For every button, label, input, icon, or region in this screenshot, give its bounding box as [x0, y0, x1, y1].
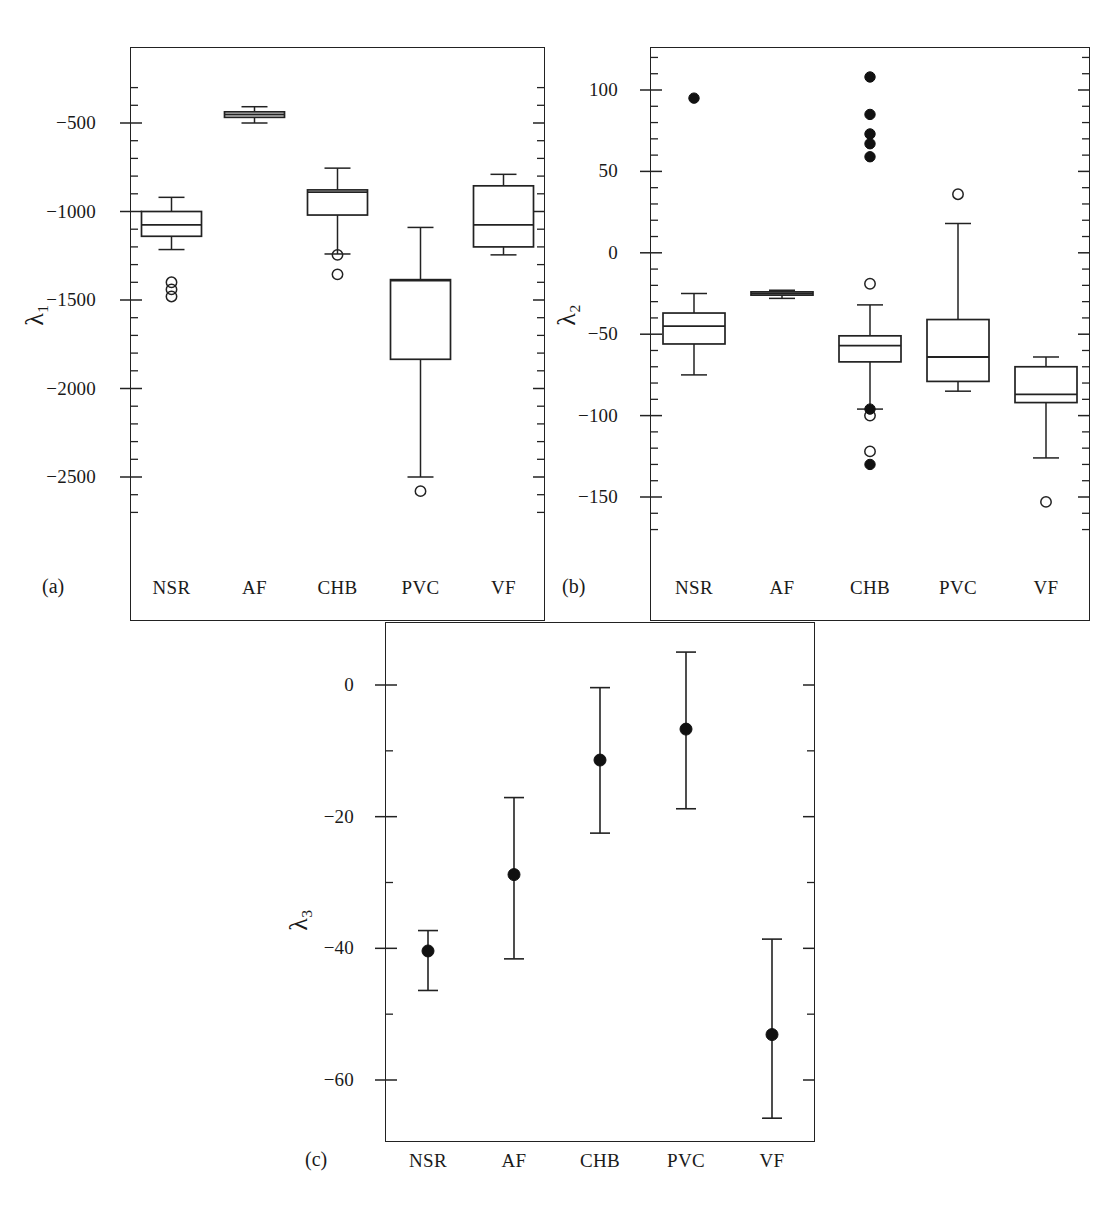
y-tick-label: −150 [522, 486, 618, 508]
x-category-label-vf: VF [1034, 577, 1059, 599]
x-category-label-af: AF [770, 577, 795, 599]
mean-marker [680, 723, 692, 735]
x-category-label-pvc: PVC [939, 577, 977, 599]
x-category-label-nsr: NSR [675, 577, 713, 599]
y-tick-label: −2000 [0, 378, 96, 400]
x-category-label-pvc: PVC [402, 577, 440, 599]
errorbar-nsr [418, 931, 438, 991]
x-category-label-af: AF [502, 1150, 527, 1172]
y-tick-label: 100 [522, 79, 618, 101]
x-category-label-vf: VF [760, 1150, 785, 1172]
y-tick-label: −500 [0, 112, 96, 134]
x-category-label-chb: CHB [850, 577, 890, 599]
y-tick-label: 50 [522, 160, 618, 182]
mean-marker [422, 945, 434, 957]
errorbar-af [504, 798, 524, 959]
y-tick-label: −100 [522, 405, 618, 427]
errorbar-vf [762, 939, 782, 1118]
y-tick-label: −1000 [0, 201, 96, 223]
y-tick-label: −60 [258, 1069, 354, 1091]
errorbar-chb [590, 688, 610, 833]
mean-marker [508, 869, 520, 881]
y-tick-label: −50 [522, 323, 618, 345]
y-tick-label: 0 [258, 674, 354, 696]
y-axis-title-text: λ₃ [284, 909, 313, 931]
y-tick-label: −40 [258, 937, 354, 959]
panel-c-y-axis-label: λ₃ [284, 909, 314, 931]
x-category-label-vf: VF [491, 577, 516, 599]
x-category-label-nsr: NSR [409, 1150, 447, 1172]
x-category-label-nsr: NSR [153, 577, 191, 599]
x-category-label-af: AF [242, 577, 267, 599]
x-category-label-pvc: PVC [667, 1150, 705, 1172]
y-tick-label: 0 [522, 242, 618, 264]
y-tick-label: −2500 [0, 466, 96, 488]
y-tick-label: −20 [258, 806, 354, 828]
panel-c-tag: (c) [305, 1148, 327, 1171]
mean-marker [766, 1029, 778, 1041]
y-tick-label: −1500 [0, 289, 96, 311]
mean-marker [594, 754, 606, 766]
x-category-label-chb: CHB [318, 577, 358, 599]
x-category-label-chb: CHB [580, 1150, 620, 1172]
errorbar-pvc [676, 652, 696, 809]
